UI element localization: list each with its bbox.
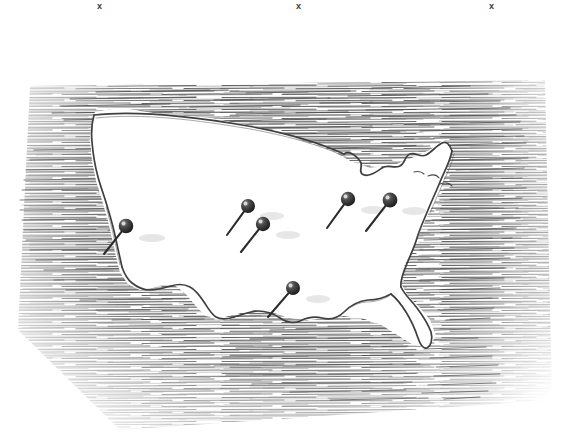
pin-head-highlight xyxy=(244,202,248,206)
pin-head-highlight xyxy=(259,220,263,224)
crop-mark-right: x xyxy=(489,2,494,11)
pin-shadow xyxy=(139,234,165,242)
pin-head-highlight xyxy=(344,195,348,199)
pin-head xyxy=(286,281,300,295)
crop-mark-left: x xyxy=(97,2,102,11)
pin-head xyxy=(341,192,355,206)
pin-head-highlight xyxy=(122,222,126,226)
pin-shadow xyxy=(276,231,300,239)
pin-head-highlight xyxy=(386,196,390,200)
pin-head xyxy=(383,193,398,208)
crop-mark-center: x xyxy=(296,2,301,11)
pin-head-highlight xyxy=(289,284,293,288)
pin-head xyxy=(256,217,270,231)
pin-shadow xyxy=(402,207,426,215)
pin-head xyxy=(119,219,134,234)
map-illustration xyxy=(0,0,572,446)
pin-head xyxy=(241,199,255,213)
illustration-canvas: x x x xyxy=(0,0,572,446)
pin-shadow xyxy=(306,295,330,303)
